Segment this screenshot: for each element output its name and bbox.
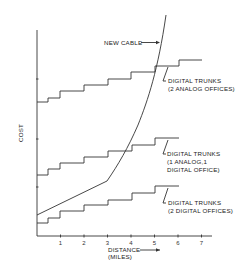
x-tick-label: 6	[176, 240, 180, 246]
annotation-2-analog-sub: (2 ANALOG OFFICES)	[168, 85, 235, 92]
arrowhead-icon	[156, 41, 160, 45]
x-tick-label: 2	[82, 240, 86, 246]
arrowhead-icon	[156, 248, 160, 252]
series-new-cable	[37, 15, 166, 215]
annotation-mixed-sub: (1 ANALOG,1	[167, 158, 207, 165]
annotation-mixed-label: DIGITAL TRUNKS	[167, 150, 220, 157]
x-axis-label: DISTANCE	[108, 246, 140, 253]
annotation-new-cable: NEW CABLE	[104, 39, 142, 46]
x-tick-label: 7	[200, 240, 204, 246]
annotation-2-digital-label: DIGITAL TRUNKS	[168, 199, 221, 206]
x-tick-label: 5	[153, 240, 157, 246]
cost-distance-chart: 1 2 3 4 5 6 7 COST DISTANCE (MILES) NEW …	[0, 0, 240, 273]
series-1-analog-1-digital	[37, 138, 179, 175]
annotation-2-digital-sub: (2 DIGITAL OFFICES)	[168, 207, 233, 214]
x-tick-label: 1	[59, 240, 63, 246]
annotation-2-analog-label: DIGITAL TRUNKS	[168, 77, 221, 84]
annotation-mixed-sub2: DIGITAL OFFICE)	[167, 166, 220, 173]
x-axis-unit: (MILES)	[108, 253, 132, 260]
y-axis-label: COST	[17, 124, 24, 142]
